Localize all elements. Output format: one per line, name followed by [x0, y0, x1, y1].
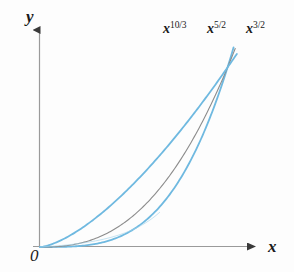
- curve-x-10-3: [40, 47, 234, 247]
- curve-label-exponent: 5/2: [214, 20, 226, 30]
- curve-label-x-5-2: x5/2: [207, 21, 226, 36]
- curve-label-exponent: 3/2: [253, 20, 265, 30]
- math-figure: y x 0 x10/3 x5/2 x3/2: [0, 0, 294, 272]
- curve-label-base: x: [163, 21, 170, 36]
- x-axis-label: x: [268, 238, 277, 255]
- plot-canvas: [0, 0, 294, 272]
- curve-label-x-3-2: x3/2: [246, 21, 265, 36]
- curve-x-5-2: [40, 48, 235, 247]
- curve-label-base: x: [246, 21, 253, 36]
- curve-x-3-2: [40, 54, 237, 247]
- origin-label: 0: [30, 247, 39, 264]
- curve-label-base: x: [207, 21, 214, 36]
- y-axis-label: y: [26, 8, 34, 25]
- curve-label-exponent: 10/3: [170, 20, 187, 30]
- curve-label-x-10-3: x10/3: [163, 21, 187, 36]
